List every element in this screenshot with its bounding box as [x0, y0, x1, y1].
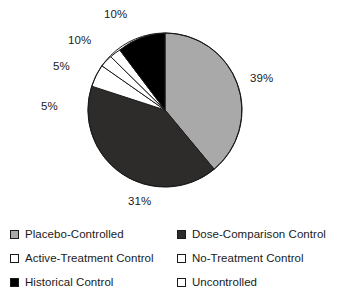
legend-label: Active-Treatment Control [25, 252, 154, 264]
legend-label: Dose-Comparison Control [192, 228, 326, 240]
legend-item-active-treatment-control[interactable]: Active-Treatment Control [4, 246, 176, 270]
legend-swatch-icon [177, 254, 186, 263]
slice-label-uncontrolled: 10% [104, 8, 127, 20]
legend-item-uncontrolled[interactable]: Uncontrolled [176, 270, 333, 294]
legend-label: Uncontrolled [192, 276, 257, 288]
legend-swatch-icon [177, 278, 186, 287]
slice-label-active-treatment-control: 5% [41, 100, 58, 112]
legend-row: Active-Treatment Control No-Treatment Co… [4, 246, 333, 270]
legend-label: Placebo-Controlled [25, 228, 124, 240]
slice-label-historical-control: 10% [68, 34, 91, 46]
legend-swatch-icon [10, 230, 19, 239]
legend-label: Historical Control [25, 276, 113, 288]
legend-item-placebo-controlled[interactable]: Placebo-Controlled [4, 222, 176, 246]
chart-legend: Placebo-Controlled Dose-Comparison Contr… [0, 222, 337, 295]
pie-chart: 39% 31% 5% 5% 10% 10% [0, 0, 337, 215]
legend-item-no-treatment-control[interactable]: No-Treatment Control [176, 246, 333, 270]
slice-label-no-treatment-control: 5% [53, 60, 70, 72]
legend-row: Historical Control Uncontrolled [4, 270, 333, 294]
legend-swatch-icon [10, 278, 19, 287]
legend-label: No-Treatment Control [192, 252, 304, 264]
legend-swatch-icon [10, 254, 19, 263]
legend-item-dose-comparison-control[interactable]: Dose-Comparison Control [176, 222, 333, 246]
legend-row: Placebo-Controlled Dose-Comparison Contr… [4, 222, 333, 246]
slice-label-dose-comparison-control: 31% [128, 195, 151, 207]
legend-item-historical-control[interactable]: Historical Control [4, 270, 176, 294]
legend-swatch-icon [177, 230, 186, 239]
slice-label-placebo-controlled: 39% [250, 72, 273, 84]
